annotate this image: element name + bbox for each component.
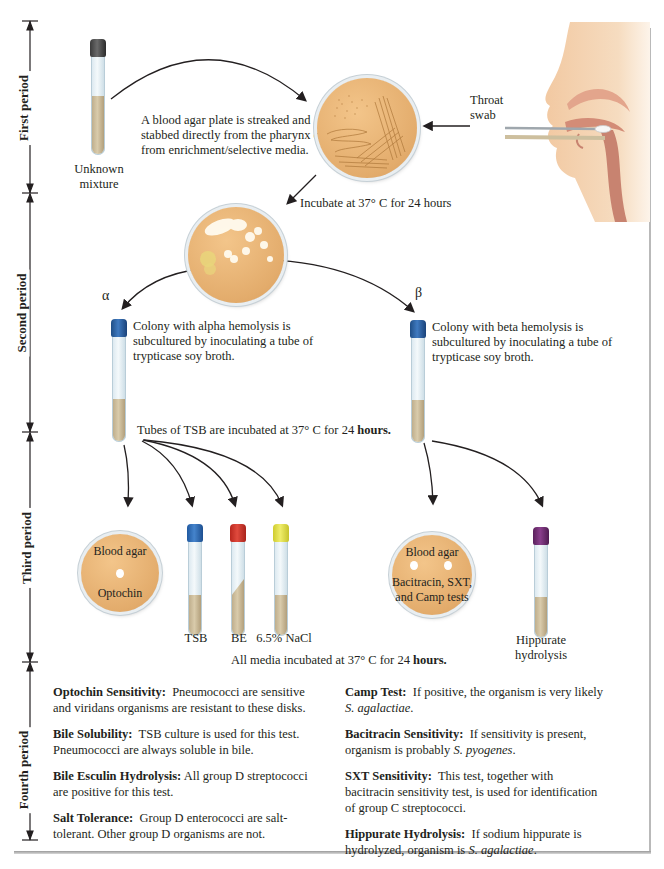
all-media-incubate-text: All media incubated at 37° C for 24 hour…	[231, 653, 447, 668]
bile-esculin-note: Bile Esculin Hydrolysis: All group D str…	[53, 768, 318, 800]
streak-pattern	[317, 78, 417, 178]
hemolysis-colonies	[188, 207, 284, 303]
optochin-plate-top-label: Blood agar	[81, 544, 159, 559]
nacl-tube-label: 6.5% NaCl	[256, 631, 312, 646]
tube-contents	[535, 597, 547, 637]
optochin-plate-bottom-label: Optochin	[81, 586, 159, 601]
streaked-blood-agar-plate	[317, 78, 417, 178]
tube-cap	[187, 524, 203, 542]
salt-tolerance-note: Salt Tolerance: Group D enterococci are …	[53, 810, 318, 842]
beta-subculture-text: Colony with beta hemolysis is subculture…	[432, 320, 642, 365]
hippurate-hydrolysis-note: Hippurate Hydrolysis: If sodium hippurat…	[345, 826, 605, 858]
bile-esculin-tube	[231, 532, 245, 636]
optochin-sensitivity-note: Optochin Sensitivity: Pneumococci are se…	[53, 684, 318, 716]
tsb-tube	[188, 532, 202, 636]
streak-description: A blood agar plate is streaked and stabb…	[141, 113, 341, 158]
bacitracin-disk	[410, 561, 418, 570]
bacitracin-blood-agar-plate: Blood agar Bacitracin, SXT, and Camp tes…	[392, 535, 472, 615]
tube-contents	[275, 595, 287, 635]
tube-cap	[90, 39, 106, 57]
hippurate-label: Hippurate hydrolysis	[506, 633, 576, 663]
tsb-tube-label: TSB	[176, 631, 216, 646]
fourth-period-left-column: Optochin Sensitivity: Pneumococci are se…	[53, 684, 318, 852]
tube-contents	[92, 96, 104, 154]
bacitracin-sensitivity-note: Bacitracin Sensitivity: If sensitivity i…	[345, 726, 605, 758]
throat-swab-label: Throat swab	[470, 93, 503, 123]
tsb-incubate-text: Tubes of TSB are incubated at 37° C for …	[137, 423, 391, 438]
alpha-tsb-tube	[112, 327, 126, 442]
beta-tsb-tube	[411, 328, 425, 443]
tube-cap	[111, 319, 127, 337]
tube-contents-slant	[232, 579, 244, 635]
tube-cap	[410, 320, 426, 338]
colony-blood-agar-plate	[188, 207, 284, 303]
hippurate-tube	[534, 535, 548, 638]
tube-cap	[273, 524, 289, 542]
fourth-period-right-column: Camp Test: If positive, the organism is …	[345, 684, 605, 868]
tube-contents	[189, 595, 201, 635]
alpha-subculture-text: Colony with alpha hemolysis is subcultur…	[133, 319, 343, 364]
nacl-tube	[274, 532, 288, 636]
optochin-disk	[116, 569, 124, 578]
sxt-disk	[444, 561, 452, 570]
unknown-mixture-tube	[91, 45, 105, 155]
be-tube-label: BE	[219, 631, 259, 646]
beta-plate-top-label: Blood agar	[392, 545, 472, 560]
unknown-mixture-label: Unknown mixture	[66, 162, 132, 192]
head-throat-illustration	[505, 22, 650, 222]
beta-plate-line2: Bacitracin, SXT,	[390, 575, 474, 590]
incubate-first-text: Incubate at 37° C for 24 hours	[300, 196, 452, 211]
beta-symbol: β	[415, 285, 422, 300]
bile-solubility-note: Bile Solubility: TSB culture is used for…	[53, 726, 318, 758]
optochin-blood-agar-plate: Blood agar Optochin	[81, 534, 159, 612]
beta-plate-line3: and Camp tests	[390, 590, 474, 605]
tube-contents	[113, 399, 125, 441]
tube-cap	[533, 527, 549, 545]
tube-contents	[412, 400, 424, 442]
camp-test-note: Camp Test: If positive, the organism is …	[345, 684, 605, 716]
sxt-sensitivity-note: SXT Sensitivity: This test, together wit…	[345, 768, 605, 816]
alpha-symbol: α	[102, 288, 109, 303]
tube-cap	[230, 524, 246, 542]
